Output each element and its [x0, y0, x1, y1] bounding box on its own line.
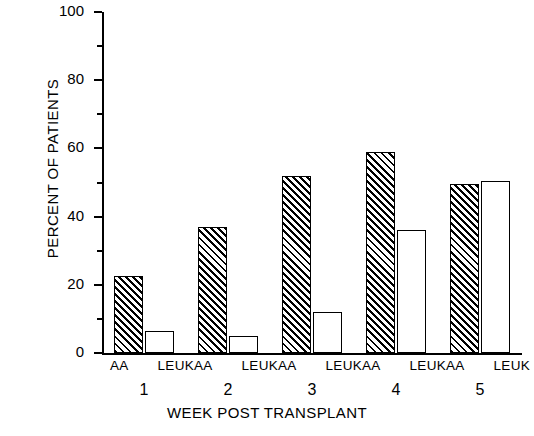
tick-label-aa-week-1: AA: [110, 358, 129, 373]
x-axis-line: [102, 353, 522, 355]
y-tick-label-40: 40: [44, 206, 84, 225]
bar-leuk-week-4: [397, 230, 426, 353]
y-tick-label-60: 60: [44, 137, 84, 156]
y-axis-title: PERCENT OF PATIENTS: [44, 24, 61, 314]
bar-leuk-week-2: [229, 336, 258, 353]
y-tick-0: 0: [94, 352, 102, 354]
x-tick-label-week-5: 5: [438, 381, 522, 399]
y-tick-label-20: 20: [44, 274, 84, 293]
tick-label-leuk-week-5: LEUK: [494, 358, 530, 373]
bar-aa-week-3: [282, 176, 311, 353]
bar-leuk-week-1: [145, 331, 174, 353]
x-tick-label-week-3: 3: [270, 381, 354, 399]
x-tick-label-week-2: 2: [186, 381, 270, 399]
bar-aa-week-1: [114, 276, 143, 353]
tick-label-aa-week-3: AA: [278, 358, 297, 373]
y-tick-label-80: 80: [44, 69, 84, 88]
bar-aa-week-5: [450, 184, 479, 353]
bar-aa-week-4: [366, 152, 395, 353]
bar-chart-figure: PERCENT OF PATIENTS 020406080100 AALEUK1…: [0, 0, 534, 436]
bar-group-week-1: AALEUK1: [102, 12, 186, 353]
y-tick-label-100: 100: [44, 1, 84, 20]
tick-label-aa-week-4: AA: [362, 358, 381, 373]
y-tick-80: 80: [94, 79, 102, 81]
x-tick-label-week-1: 1: [102, 381, 186, 399]
bar-group-week-4: AALEUK4: [354, 12, 438, 353]
group-tick-labels-week-5: AALEUK: [438, 358, 534, 373]
y-tick-40: 40: [94, 216, 102, 218]
bar-group-week-5: AALEUK5: [438, 12, 522, 353]
plot-area: 020406080100 AALEUK1AALEUK2AALEUK3AALEUK…: [102, 12, 522, 355]
bar-group-week-2: AALEUK2: [186, 12, 270, 353]
x-axis-title: WEEK POST TRANSPLANT: [0, 404, 534, 421]
bar-group-week-3: AALEUK3: [270, 12, 354, 353]
bar-aa-week-2: [198, 227, 227, 353]
y-tick-60: 60: [94, 147, 102, 149]
y-tick-100: 100: [94, 11, 102, 13]
tick-label-aa-week-5: AA: [446, 358, 465, 373]
y-tick-label-0: 0: [44, 342, 84, 361]
y-tick-20: 20: [94, 284, 102, 286]
x-tick-label-week-4: 4: [354, 381, 438, 399]
bar-leuk-week-3: [313, 312, 342, 353]
bar-leuk-week-5: [481, 181, 510, 353]
tick-label-aa-week-2: AA: [194, 358, 213, 373]
